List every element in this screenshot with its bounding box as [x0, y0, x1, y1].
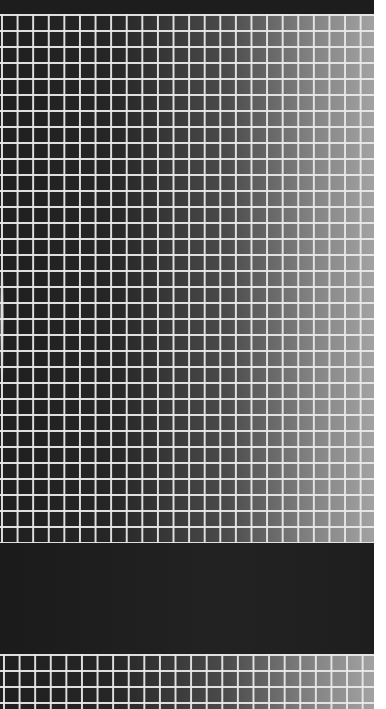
- left-edge-highlight: [0, 270, 4, 380]
- middle-dark-band: [0, 543, 374, 654]
- top-dark-band: [0, 0, 374, 14]
- upper-grid-region: [0, 14, 374, 543]
- grid-photo: [0, 0, 374, 709]
- lower-grid-region: [0, 654, 374, 709]
